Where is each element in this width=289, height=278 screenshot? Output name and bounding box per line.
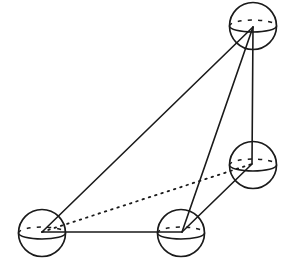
sphere-outline [158, 210, 205, 257]
sphere-outline [230, 142, 277, 189]
edge-A-C [182, 27, 253, 232]
right-sphere [230, 142, 277, 189]
equator-back-arc [230, 159, 277, 165]
equator-front-arc [19, 233, 66, 239]
bottom-left-sphere [19, 210, 66, 257]
tetrahedron-sphere-diagram [0, 0, 289, 278]
edge-C-D [182, 164, 252, 232]
equator-front-arc [158, 233, 205, 239]
equator-back-arc [230, 20, 277, 26]
bottom-middle-sphere [158, 210, 205, 257]
edge-A-B [42, 27, 253, 232]
equator-front-arc [230, 165, 277, 171]
edges-group [42, 27, 253, 232]
sphere-outline [19, 210, 66, 257]
edge-B-D-hidden [42, 164, 252, 232]
edge-A-D [252, 27, 253, 164]
